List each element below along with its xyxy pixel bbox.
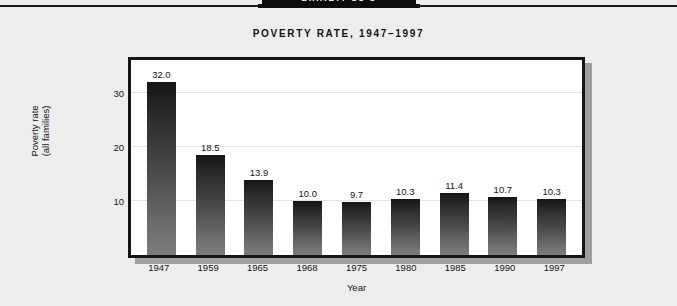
bar	[196, 155, 225, 255]
exhibit-page: EXHIBIT 21-1 POVERTY RATE, 1947–1997 Pov…	[0, 0, 677, 306]
bar-value-label: 10.3	[528, 186, 576, 197]
bar-slot: 18.5	[186, 60, 235, 255]
x-axis-title: Year	[128, 282, 585, 293]
bar	[440, 193, 469, 255]
bar-slot: 9.7	[332, 60, 381, 255]
x-tick-label: 1990	[480, 262, 529, 273]
x-tick-label: 1968	[282, 262, 331, 273]
bar-value-label: 10.0	[284, 188, 332, 199]
x-tick-label: 1997	[530, 262, 579, 273]
bar-value-label: 10.3	[381, 186, 429, 197]
bar-series: 32.018.513.910.09.710.311.410.710.3	[131, 60, 582, 255]
bar-value-label: 18.5	[186, 142, 234, 153]
y-tick-label-30: 30	[113, 87, 124, 98]
bar	[244, 180, 273, 255]
bar-slot: 32.0	[137, 60, 186, 255]
bar-slot: 11.4	[430, 60, 479, 255]
bar	[537, 199, 566, 255]
bar	[488, 197, 517, 255]
plot-area: 32.018.513.910.09.710.311.410.710.3	[131, 60, 582, 255]
x-tick-label: 1980	[381, 262, 430, 273]
x-axis-tick-labels: 194719591965196819751980198519901997	[128, 262, 585, 273]
plot-frame: 32.018.513.910.09.710.311.410.710.3	[128, 57, 585, 258]
bar-slot: 10.0	[283, 60, 332, 255]
y-axis-title: Poverty rate (all families)	[29, 71, 51, 191]
bar	[391, 199, 420, 255]
bar	[293, 201, 322, 255]
y-tick-label-10: 10	[113, 195, 124, 206]
bar-value-label: 11.4	[430, 180, 478, 191]
x-tick-label: 1947	[134, 262, 183, 273]
x-tick-label: 1965	[233, 262, 282, 273]
chart-title: POVERTY RATE, 1947–1997	[0, 28, 677, 39]
bar	[342, 202, 371, 255]
bar-value-label: 32.0	[137, 69, 185, 80]
exhibit-banner: EXHIBIT 21-1	[262, 0, 416, 6]
bar-value-label: 13.9	[235, 167, 283, 178]
bar-value-label: 9.7	[333, 189, 381, 200]
y-tick-label-20: 20	[113, 141, 124, 152]
x-tick-label: 1975	[332, 262, 381, 273]
bar-slot: 13.9	[235, 60, 284, 255]
x-tick-label: 1959	[183, 262, 232, 273]
x-tick-label: 1985	[431, 262, 480, 273]
bar-value-label: 10.7	[479, 184, 527, 195]
bar-slot: 10.3	[527, 60, 576, 255]
y-axis-tick-labels: 102030	[98, 57, 124, 258]
bar-slot: 10.7	[478, 60, 527, 255]
bar-slot: 10.3	[381, 60, 430, 255]
bar	[147, 82, 176, 255]
